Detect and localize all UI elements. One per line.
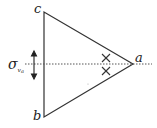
vertex-label-b: b — [33, 109, 41, 122]
cross-marker-lower — [102, 67, 110, 75]
symmetry-diagram: c b a σva — [0, 0, 157, 128]
sigma-symbol: σ — [8, 56, 18, 72]
sigma-label: σva — [8, 57, 24, 71]
vertex-label-c: c — [34, 2, 41, 15]
double-arrow-icon — [32, 51, 37, 79]
dot — [87, 83, 88, 84]
cross-marker-upper — [102, 54, 110, 62]
vertex-label-a: a — [135, 51, 143, 64]
sigma-subsubscript: a — [21, 68, 24, 74]
